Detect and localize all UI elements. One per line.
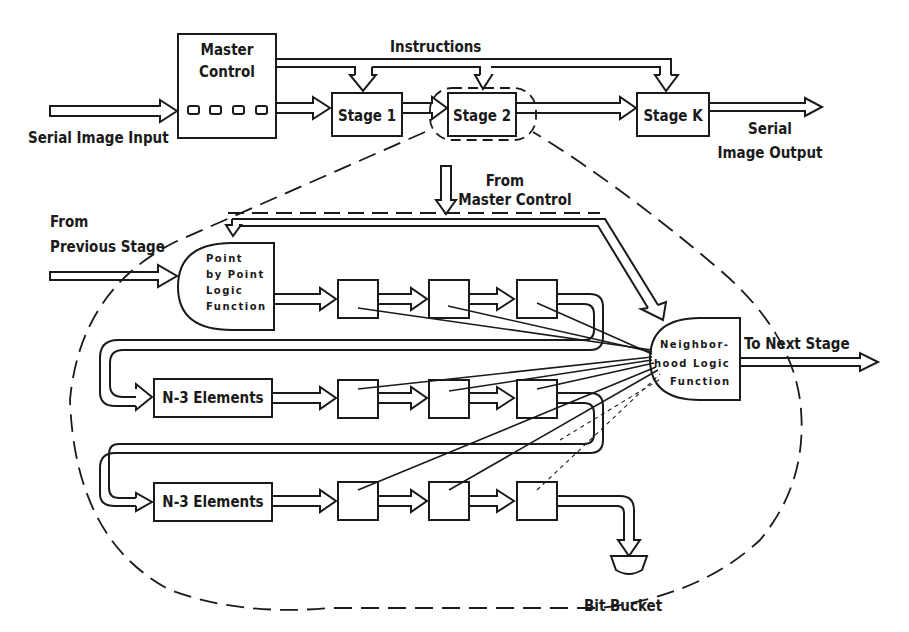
from-master-arrow (436, 166, 456, 214)
master-control-label-2: Control (199, 63, 255, 81)
register-r2-2 (429, 380, 469, 418)
instructions-label: Instructions (390, 38, 481, 56)
wrap-arrow-2 (136, 493, 152, 511)
point-logic-label-4: Function (206, 301, 267, 312)
instructions-bus (276, 59, 678, 91)
wrap-arrow-1 (136, 384, 152, 410)
point-logic-label-1: Point (206, 253, 243, 264)
neighborhood-label-3: Function (670, 376, 731, 387)
row1-arrows (274, 288, 514, 310)
from-master-label-2: Master Control (458, 191, 571, 209)
neighborhood-label-2: hood Logic (654, 358, 730, 369)
point-logic-label-2: by Point (206, 269, 265, 280)
row3-arrows (272, 490, 514, 512)
stage-k-label: Stage K (643, 107, 703, 125)
serial-input-arrow (50, 100, 177, 122)
register-r3-3 (517, 482, 557, 520)
to-next-stage-arrow (740, 353, 878, 371)
stage-1-label: Stage 1 (338, 107, 396, 125)
register-r3-2 (429, 482, 469, 520)
point-logic-label-3: Logic (206, 285, 243, 296)
stage-2-label: Stage 2 (453, 107, 511, 125)
arrow-to-bit-bucket (557, 496, 640, 556)
pipeline-diagram: Serial Image Input Master Control Instru… (0, 0, 909, 632)
from-master-label-1: From (486, 172, 524, 190)
bit-bucket-label: Bit Bucket (584, 597, 663, 615)
arrow-master-to-stage1 (276, 97, 330, 119)
arrow-stage1-to-stage2 (402, 97, 447, 119)
from-previous-label-2: Previous Stage (50, 238, 165, 256)
from-previous-arrow (50, 265, 177, 287)
serial-output-arrow (709, 98, 822, 116)
bit-bucket-icon (611, 556, 647, 574)
delay-line-1-label: N-3 Elements (162, 389, 263, 407)
serial-input-label: Serial Image Input (28, 129, 169, 147)
delay-line-2-label: N-3 Elements (162, 493, 263, 511)
serial-output-label-2: Image Output (718, 144, 823, 162)
register-r1-3 (517, 280, 557, 318)
register-r1-2 (429, 280, 469, 318)
to-next-stage-label: To Next Stage (744, 335, 850, 353)
register-r3-1 (338, 482, 378, 520)
neighborhood-label-1: Neighbor- (660, 339, 729, 350)
row2-arrows (272, 387, 514, 409)
register-r2-1 (338, 380, 378, 418)
register-r1-1 (338, 280, 378, 318)
master-control-label-1: Master (201, 41, 254, 59)
from-previous-label-1: From (50, 213, 88, 231)
serial-output-label-1: Serial (748, 120, 792, 138)
